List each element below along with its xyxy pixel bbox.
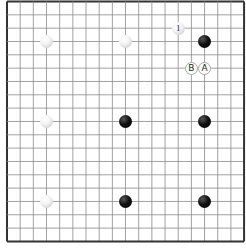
go-board: 1 BA — [0, 0, 246, 250]
white-stone: 1 — [172, 22, 185, 35]
white-stone — [40, 115, 53, 128]
white-stone — [40, 35, 53, 48]
black-stone — [198, 35, 211, 48]
move-number: 1 — [172, 22, 185, 35]
black-stone — [198, 195, 211, 208]
point-label-b: B — [185, 62, 198, 75]
black-stone — [119, 195, 132, 208]
black-stone — [119, 115, 132, 128]
black-stone — [198, 115, 211, 128]
white-stone — [40, 195, 53, 208]
point-label-a: A — [198, 62, 211, 75]
white-stone — [119, 35, 132, 48]
